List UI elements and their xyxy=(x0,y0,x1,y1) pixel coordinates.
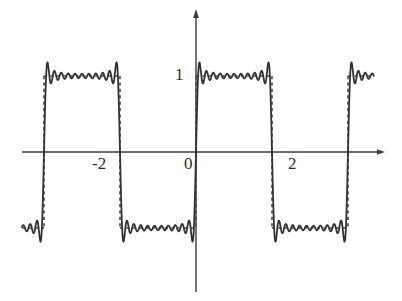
x-tick-label-zero: 0 xyxy=(184,155,193,172)
axes-group xyxy=(22,9,385,292)
plot-canvas xyxy=(0,0,402,301)
gibbs-phenomenon-figure: -2 0 2 1 xyxy=(0,0,402,301)
x-tick-label-neg2: -2 xyxy=(92,155,106,172)
y-axis-arrow-icon xyxy=(193,9,199,18)
x-tick-label-pos2: 2 xyxy=(288,155,297,172)
x-axis-arrow-icon xyxy=(377,149,385,155)
y-tick-label-one: 1 xyxy=(175,66,184,83)
